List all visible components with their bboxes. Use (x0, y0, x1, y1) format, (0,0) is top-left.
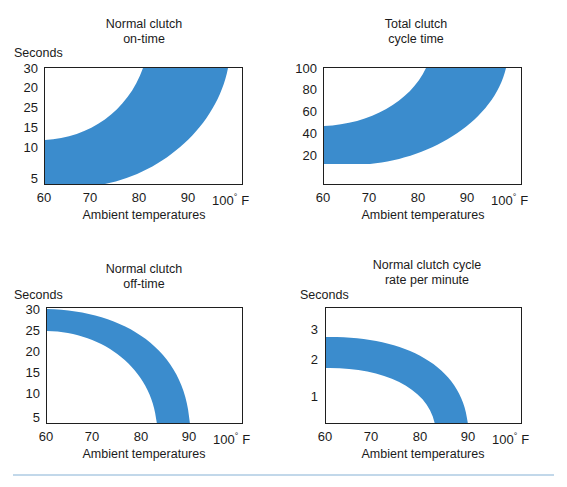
degree-icon: ° (514, 431, 518, 441)
y-tick-label: 20 (14, 81, 38, 94)
band-shape (324, 68, 522, 185)
x-tick-label-max: 100°F (213, 430, 269, 446)
chart-title: Total clutch cycle time (346, 17, 486, 47)
x-tick-label: 80 (406, 430, 434, 443)
y-tick-label: 15 (14, 366, 40, 379)
chart-title: Normal clutch on-time (74, 17, 214, 47)
x-unit-label: F (520, 193, 528, 208)
y-tick-label: 1 (300, 390, 318, 403)
x-axis-label: Ambient temperatures (64, 208, 224, 222)
degree-icon: ° (513, 192, 517, 202)
x-tick-label: 60 (311, 430, 339, 443)
y-tick-label: 25 (14, 324, 40, 337)
x-tick-label: 60 (309, 191, 337, 204)
y-axis-label: Seconds (14, 288, 63, 302)
degree-icon: ° (235, 431, 239, 441)
x-axis-label: Ambient temperatures (343, 208, 503, 222)
y-tick-label: 25 (14, 101, 38, 114)
chart-title: Normal clutch cycle rate per minute (342, 258, 512, 288)
x-tick-label-max: 100°F (212, 191, 268, 207)
plot-area (325, 307, 522, 424)
y-tick-label: 10 (14, 387, 40, 400)
band-shape (45, 68, 243, 185)
x-tick-label-max: 100°F (492, 430, 548, 446)
y-tick-label: 30 (14, 303, 40, 316)
chart-panel-normal-clutch-cycle-rate: Normal clutch cycle rate per minute Seco… (284, 244, 567, 487)
x-tick-value: 100 (213, 432, 235, 447)
y-tick-label: 10 (14, 141, 38, 154)
x-tick-label: 60 (32, 430, 60, 443)
footer-divider (13, 474, 554, 476)
x-tick-label: 90 (175, 430, 203, 443)
x-tick-label: 80 (127, 430, 155, 443)
y-tick-label: 5 (14, 411, 40, 424)
x-tick-label: 80 (125, 191, 153, 204)
chart-panel-total-clutch-cycle-time: Total clutch cycle time 100 80 60 40 20 … (284, 0, 567, 244)
y-tick-label: 5 (14, 172, 38, 185)
y-tick-label: 60 (287, 105, 317, 118)
x-tick-label: 70 (78, 430, 106, 443)
x-axis-label: Ambient temperatures (64, 447, 224, 461)
x-tick-label: 80 (404, 191, 432, 204)
x-unit-label: F (521, 432, 529, 447)
x-unit-label: F (242, 432, 250, 447)
y-tick-label: 20 (287, 149, 317, 162)
chart-panel-normal-clutch-on-time: Normal clutch on-time Seconds 30 20 25 1… (0, 0, 284, 244)
chart-title: Normal clutch off-time (74, 262, 214, 292)
x-tick-label: 70 (357, 430, 385, 443)
y-tick-label: 2 (300, 353, 318, 366)
band-shape (47, 308, 243, 424)
chart-panel-normal-clutch-off-time: Normal clutch off-time Seconds 30 25 20 … (0, 244, 284, 487)
x-tick-label: 90 (453, 191, 481, 204)
y-axis-label: Seconds (14, 46, 63, 60)
x-tick-value: 100 (492, 432, 514, 447)
x-tick-value: 100 (212, 193, 234, 208)
x-axis-label: Ambient temperatures (343, 447, 503, 461)
y-tick-label: 100 (287, 62, 317, 75)
y-tick-label: 30 (14, 62, 38, 75)
band-shape (326, 308, 522, 424)
x-tick-label: 90 (454, 430, 482, 443)
degree-icon: ° (234, 192, 238, 202)
y-tick-label: 20 (14, 345, 40, 358)
y-tick-label: 40 (287, 127, 317, 140)
plot-area (44, 67, 243, 185)
y-tick-label: 80 (287, 83, 317, 96)
figure-four-clutch-charts: Normal clutch on-time Seconds 30 20 25 1… (0, 0, 567, 487)
x-tick-value: 100 (491, 193, 513, 208)
x-tick-label-max: 100°F (491, 191, 547, 207)
x-unit-label: F (241, 193, 249, 208)
x-tick-label: 90 (174, 191, 202, 204)
x-tick-label: 60 (30, 191, 58, 204)
y-tick-label: 3 (300, 323, 318, 336)
x-tick-label: 70 (355, 191, 383, 204)
plot-area (323, 67, 522, 185)
y-axis-label: Seconds (300, 288, 349, 302)
plot-area (46, 307, 243, 424)
y-tick-label: 15 (14, 121, 38, 134)
x-tick-label: 70 (76, 191, 104, 204)
